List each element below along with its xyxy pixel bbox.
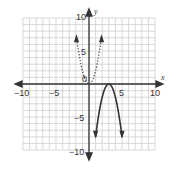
- origin-label: 0: [82, 74, 87, 84]
- y-axis-label: y: [93, 7, 98, 16]
- curve-arrowhead-icon: [119, 131, 124, 139]
- y-axis-top-arrow-icon: [86, 9, 92, 16]
- x-tick-neg10: −10: [14, 88, 29, 98]
- curve-arrowhead-icon: [93, 131, 98, 139]
- coordinate-plane: −10 −5 5 10 10 5 −5 −10 0 x y: [0, 0, 172, 171]
- y-tick-neg5: −5: [74, 113, 84, 123]
- x-axis-left-arrow-icon: [15, 81, 22, 87]
- curve-arrowhead-icon: [99, 34, 104, 42]
- y-tick-neg10: −10: [69, 147, 84, 157]
- y-axis-bottom-arrow-icon: [86, 153, 92, 160]
- x-axis-label: x: [160, 73, 165, 82]
- y-tick-5: 5: [81, 47, 86, 57]
- axes: [15, 9, 163, 160]
- x-tick-5: 5: [119, 88, 124, 98]
- y-tick-10: 10: [76, 12, 86, 22]
- x-tick-10: 10: [150, 88, 160, 98]
- x-tick-neg5: −5: [49, 88, 59, 98]
- curve-arrowhead-icon: [74, 34, 79, 42]
